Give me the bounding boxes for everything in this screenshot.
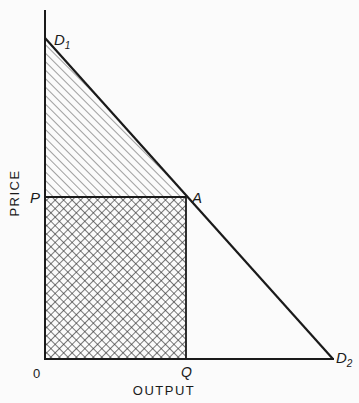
a-label: A <box>191 189 202 206</box>
y-axis-label: PRICE <box>7 169 22 216</box>
origin-label: 0 <box>33 366 40 381</box>
demand-diagram: D1 P A D2 0 Q OUTPUT PRICE <box>0 0 359 403</box>
rectangle-region <box>45 197 186 359</box>
d1-label: D1 <box>54 31 70 51</box>
q-label: Q <box>181 364 192 380</box>
x-axis-label: OUTPUT <box>133 383 195 398</box>
d2-label: D2 <box>336 349 353 369</box>
p-label: P <box>30 189 40 206</box>
